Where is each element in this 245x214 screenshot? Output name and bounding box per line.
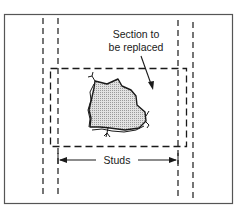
damaged-area — [88, 72, 149, 137]
studs-label: Studs — [104, 154, 131, 166]
section-arrow — [141, 56, 154, 90]
section-label-line2: be replaced — [109, 41, 164, 53]
section-label-line1: Section to — [113, 28, 160, 40]
stud-patch-diagram: Section to be replaced Studs — [0, 0, 245, 214]
